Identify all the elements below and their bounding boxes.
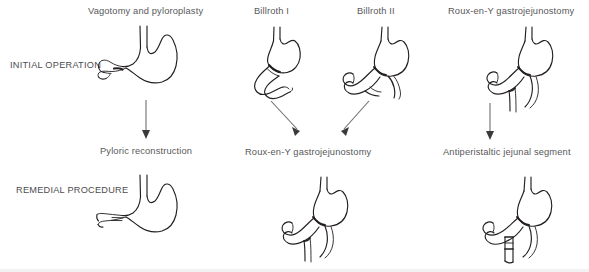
figure-stomach-pyloric-reconstruction xyxy=(96,173,198,247)
row-label-initial-operation: INITIAL OPERATION xyxy=(10,60,101,71)
diagram-canvas: Vagotomy and pyloroplasty Billroth I Bil… xyxy=(0,0,589,272)
label-antiperistaltic-jejunal-segment: Antiperistaltic jejunal segment xyxy=(443,147,571,158)
figure-stomach-roux-en-y-initial xyxy=(452,25,568,120)
arrow-roux-en-y-to-antiperistaltic xyxy=(482,103,498,141)
label-billroth-ii: Billroth II xyxy=(357,6,395,17)
label-vagotomy-and-pyloroplasty: Vagotomy and pyloroplasty xyxy=(88,6,203,17)
label-roux-en-y-gastrojejunostomy-bottom: Roux-en-Y gastrojejunostomy xyxy=(245,147,371,158)
arrow-billroth-i-to-roux-en-y xyxy=(270,100,306,138)
label-billroth-i: Billroth I xyxy=(254,6,289,17)
label-pyloric-reconstruction: Pyloric reconstruction xyxy=(100,146,192,157)
figure-stomach-roux-en-y-remedial xyxy=(247,175,363,267)
figure-stomach-antiperistaltic-jejunal-segment xyxy=(447,175,572,267)
arrow-vagotomy-to-pyloric-reconstruction xyxy=(138,100,154,140)
arrow-billroth-ii-to-roux-en-y xyxy=(335,100,371,138)
figure-stomach-vagotomy-pyloroplasty xyxy=(96,24,198,98)
label-roux-en-y-gastrojejunostomy-top: Roux-en-Y gastrojejunostomy xyxy=(448,6,574,17)
